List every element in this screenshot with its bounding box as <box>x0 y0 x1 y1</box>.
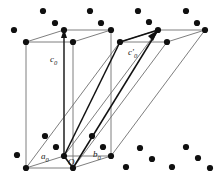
cell-corner-base-bbr <box>108 153 114 159</box>
lattice-figure: c0 c'0 a0 b0 O <box>0 0 222 180</box>
label-c0-sub: 0 <box>54 59 57 66</box>
lattice-point <box>149 156 155 162</box>
lattice-point <box>207 165 213 171</box>
lattice-point <box>169 164 175 170</box>
label-a0: a0 <box>41 152 49 163</box>
lattice-point <box>194 20 200 26</box>
lattice-point <box>183 8 189 14</box>
label-b0: b0 <box>93 150 101 161</box>
cell-corner-ortho-tbr <box>108 27 114 33</box>
cell-corner-ortho-tbl <box>61 27 67 33</box>
lattice-point <box>40 8 46 14</box>
lattice-point <box>183 144 189 150</box>
lattice-point <box>146 19 152 25</box>
label-c0prime-sub: 0 <box>134 52 137 59</box>
cell-corner-ortho-tfr <box>70 39 76 45</box>
lattice-point <box>89 133 95 139</box>
sheared-top-face <box>120 30 205 42</box>
cell-corner-sheared-tfr <box>164 39 170 45</box>
lattice-point <box>42 133 48 139</box>
label-c0-prime: c'0 <box>128 48 137 59</box>
label-origin-letter: O <box>68 157 75 167</box>
lattice-canvas <box>0 0 222 180</box>
label-origin: O <box>68 158 75 167</box>
cell-corner-sheared-tfl <box>117 39 123 45</box>
lattice-point <box>137 145 143 151</box>
label-b0-sub: 0 <box>98 154 101 161</box>
lattice-point <box>123 164 129 170</box>
lattice-point <box>135 8 141 14</box>
lattice-point <box>14 152 20 158</box>
cell-corner-base-bfl <box>23 165 29 171</box>
lattice-point <box>100 144 106 150</box>
lattice-point <box>52 20 58 26</box>
lattice-point <box>11 27 17 33</box>
cell-corner-base-bbl <box>61 153 67 159</box>
lattice-point <box>195 155 201 161</box>
sheared-edge-fr <box>73 42 167 168</box>
sheared-edge-br <box>111 30 205 156</box>
cell-corner-sheared-tbl <box>155 27 161 33</box>
label-c0: c0 <box>50 55 57 66</box>
lattice-point <box>87 8 93 14</box>
label-a0-sub: 0 <box>46 156 49 163</box>
lattice-point <box>98 20 104 26</box>
cell-corner-sheared-tbr <box>202 27 208 33</box>
cell-corner-ortho-tfl <box>23 39 29 45</box>
ortho-top-face <box>26 30 111 42</box>
lattice-point <box>53 144 59 150</box>
